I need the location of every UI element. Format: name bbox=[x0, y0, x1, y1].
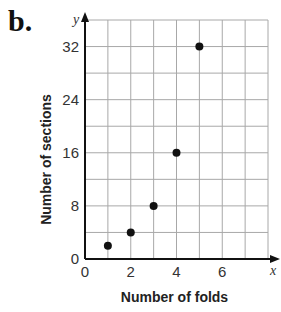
x-axis-arrow-icon bbox=[270, 255, 280, 263]
y-tick-label: 8 bbox=[71, 197, 79, 214]
x-axis-variable: x bbox=[269, 263, 277, 278]
y-axis-title: Number of sections bbox=[38, 94, 54, 225]
x-axis-title: Number of folds bbox=[121, 289, 229, 305]
y-tick-label: 32 bbox=[62, 38, 79, 55]
data-point bbox=[195, 43, 203, 51]
data-point bbox=[173, 149, 181, 157]
x-tick-label: 2 bbox=[127, 263, 135, 280]
y-tick-label: 16 bbox=[62, 144, 79, 161]
y-tick-label: 0 bbox=[71, 250, 79, 267]
x-tick-label: 6 bbox=[218, 263, 226, 280]
x-tick-label: 0 bbox=[81, 263, 89, 280]
y-tick-label: 24 bbox=[62, 91, 79, 108]
data-point bbox=[104, 242, 112, 250]
data-point bbox=[150, 202, 158, 210]
y-axis-variable: y bbox=[71, 12, 80, 27]
x-tick-label: 4 bbox=[172, 263, 180, 280]
data-point bbox=[127, 228, 135, 236]
scatter-chart: xy024608162432Number of foldsNumber of s… bbox=[0, 0, 281, 312]
y-axis-arrow-icon bbox=[81, 12, 89, 22]
